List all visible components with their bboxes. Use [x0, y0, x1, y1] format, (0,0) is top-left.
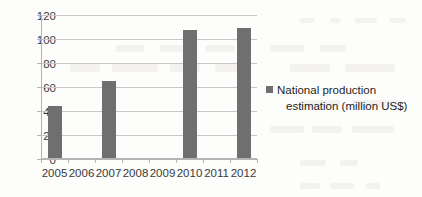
gridline-60 [42, 87, 257, 88]
x-tick-mark [149, 159, 150, 163]
scan-artifact [366, 183, 380, 189]
x-tick-mark [122, 159, 123, 163]
bar-chart-figure: 120 100 80 60 40 20 0 2005 2006 2007 200… [0, 0, 422, 197]
legend-label-line-2: estimation (million US$) [277, 99, 407, 115]
x-tick-label-2005: 2005 [41, 168, 68, 180]
gridline-120 [42, 15, 257, 16]
x-tick-mark [41, 159, 42, 163]
bar-2012 [237, 28, 251, 158]
scan-artifact [340, 160, 358, 166]
x-tick-mark [176, 159, 177, 163]
bar-2005 [48, 106, 62, 158]
scan-artifact [352, 126, 394, 133]
x-tick-mark [257, 159, 258, 163]
x-tick-mark [95, 159, 96, 163]
scan-artifact [312, 126, 342, 133]
x-tick-mark [230, 159, 231, 163]
legend-entry-label: National production estimation (million … [277, 83, 407, 114]
scan-artifact [300, 18, 314, 23]
scan-artifact [270, 45, 304, 52]
scan-artifact [330, 183, 354, 189]
x-tick-mark [68, 159, 69, 163]
gridline-40 [42, 111, 257, 112]
x-tick-label-2012: 2012 [230, 168, 257, 180]
bar-2007 [102, 81, 116, 158]
x-tick-label-2006: 2006 [68, 168, 95, 180]
gridline-20 [42, 135, 257, 136]
scan-artifact [330, 18, 340, 23]
x-tick-mark [203, 159, 204, 163]
scan-artifact [355, 18, 377, 23]
legend-label-line-1: National production [277, 84, 376, 96]
gridline-100 [42, 39, 257, 40]
scan-artifact [320, 45, 346, 52]
plot-area [41, 15, 257, 159]
x-tick-label-2011: 2011 [203, 168, 230, 180]
x-tick-label-2009: 2009 [149, 168, 176, 180]
x-tick-label-2007: 2007 [95, 168, 122, 180]
scan-artifact [270, 126, 304, 133]
x-tick-label-2008: 2008 [122, 168, 149, 180]
scan-artifact [300, 160, 326, 166]
scan-artifact [300, 183, 320, 189]
chart-legend: National production estimation (million … [266, 83, 416, 114]
bar-2010 [183, 30, 197, 158]
gridline-80 [42, 63, 257, 64]
scan-artifact [290, 64, 330, 72]
scan-artifact [345, 64, 395, 72]
scan-artifact [390, 18, 406, 23]
x-tick-label-2010: 2010 [176, 168, 203, 180]
legend-swatch-icon [266, 86, 273, 93]
